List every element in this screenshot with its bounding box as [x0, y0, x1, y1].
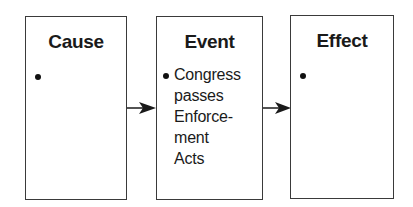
effect-title: Effect [291, 30, 393, 52]
cause-title: Cause [26, 31, 126, 53]
bullet-dot-icon [300, 73, 306, 79]
event-line: Acts [174, 150, 204, 167]
event-bullet: Congress passes Enforce- ment Acts [163, 64, 241, 169]
event-line: Congress [174, 66, 241, 83]
event-bullet-text: Congress passes Enforce- ment Acts [174, 64, 241, 169]
event-line: Enforce- [174, 108, 233, 125]
arrow-cause-to-event-icon [127, 101, 157, 115]
event-title: Event [157, 31, 262, 53]
arrow-event-to-effect-icon [263, 101, 293, 115]
cause-bullet [35, 65, 46, 80]
event-box: Event Congress passes Enforce- ment Acts [156, 16, 263, 200]
effect-bullet [300, 64, 311, 79]
bullet-dot-icon [163, 73, 169, 79]
event-line: ment [174, 129, 209, 146]
bullet-dot-icon [35, 74, 41, 80]
effect-box: Effect [290, 15, 394, 199]
cause-box: Cause [25, 16, 127, 200]
event-line: passes [174, 87, 224, 104]
